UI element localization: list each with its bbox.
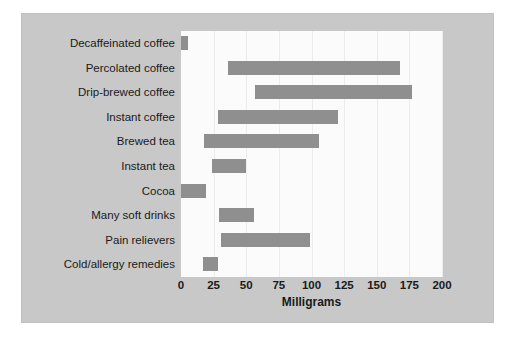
range-bar bbox=[181, 36, 188, 50]
bar-row bbox=[181, 228, 442, 253]
x-tick-label: 25 bbox=[207, 279, 220, 291]
x-tick-label: 150 bbox=[367, 279, 386, 291]
x-tick-label: 125 bbox=[335, 279, 354, 291]
bar-row bbox=[181, 179, 442, 204]
gridline bbox=[442, 31, 443, 277]
range-bar bbox=[181, 184, 206, 198]
range-bar bbox=[203, 257, 217, 271]
x-axis-tick-labels: 0255075100125150175200 bbox=[181, 279, 442, 295]
category-label: Instant coffee bbox=[106, 105, 175, 130]
x-tick-label: 100 bbox=[302, 279, 321, 291]
category-label: Decaffeinated coffee bbox=[70, 31, 175, 56]
x-tick-label: 50 bbox=[240, 279, 253, 291]
bar-row bbox=[181, 129, 442, 154]
bar-row bbox=[181, 56, 442, 81]
bar-row bbox=[181, 105, 442, 130]
range-bar bbox=[221, 233, 310, 247]
range-bar bbox=[219, 208, 254, 222]
category-label: Percolated coffee bbox=[86, 56, 175, 81]
range-bar bbox=[218, 110, 338, 124]
category-axis-labels: Decaffeinated coffeePercolated coffeeDri… bbox=[22, 31, 179, 277]
range-bar bbox=[212, 159, 246, 173]
range-bar bbox=[228, 61, 400, 75]
x-tick-label: 200 bbox=[432, 279, 451, 291]
bar-row bbox=[181, 252, 442, 277]
category-label: Cold/allergy remedies bbox=[64, 252, 175, 277]
bar-row bbox=[181, 80, 442, 105]
bar-row bbox=[181, 203, 442, 228]
bar-row bbox=[181, 154, 442, 179]
caffeine-range-chart: Decaffeinated coffeePercolated coffeeDri… bbox=[22, 14, 493, 322]
plot-area bbox=[181, 31, 443, 277]
bar-row bbox=[181, 31, 442, 56]
x-axis-title: Milligrams bbox=[181, 295, 442, 309]
range-bar bbox=[204, 134, 319, 148]
chart-figure: Decaffeinated coffeePercolated coffeeDri… bbox=[22, 14, 493, 322]
x-tick-label: 75 bbox=[272, 279, 285, 291]
x-tick-label: 175 bbox=[400, 279, 419, 291]
category-label: Pain relievers bbox=[105, 228, 175, 253]
x-tick-label: 0 bbox=[178, 279, 184, 291]
category-label: Brewed tea bbox=[117, 129, 175, 154]
category-label: Drip-brewed coffee bbox=[78, 80, 175, 105]
category-label: Many soft drinks bbox=[91, 203, 175, 228]
category-label: Cocoa bbox=[142, 179, 175, 204]
category-label: Instant tea bbox=[121, 154, 175, 179]
range-bar bbox=[255, 85, 412, 99]
